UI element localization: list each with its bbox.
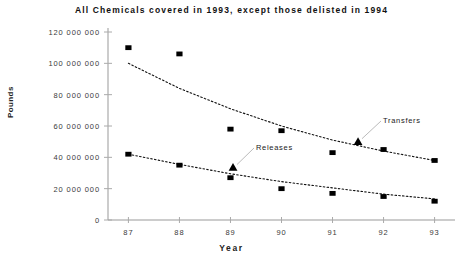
data-point-transfers-87 bbox=[125, 45, 131, 50]
series-marker-releases bbox=[229, 163, 238, 171]
y-tick-label-6: 0 bbox=[20, 216, 100, 225]
data-point-releases-88 bbox=[176, 163, 182, 168]
data-point-releases-92 bbox=[380, 194, 386, 199]
data-point-transfers-88 bbox=[176, 52, 182, 57]
x-tick-label-92: 92 bbox=[378, 228, 388, 237]
y-tick-label-1: 100 000 000 bbox=[20, 59, 100, 68]
y-tick-label-4: 40 000 000 bbox=[20, 153, 100, 162]
data-point-transfers-91 bbox=[329, 150, 335, 155]
x-tick-label-90: 90 bbox=[276, 228, 286, 237]
leader-line-1 bbox=[362, 121, 381, 139]
x-tick-label-88: 88 bbox=[174, 228, 184, 237]
x-tick-label-93: 93 bbox=[430, 228, 440, 237]
data-point-releases-89 bbox=[227, 175, 233, 180]
chart-container: All Chemicals covered in 1993, except th… bbox=[0, 0, 463, 263]
trendline-releases bbox=[128, 154, 434, 199]
data-point-releases-93 bbox=[431, 199, 437, 204]
y-tick-label-3: 60 000 000 bbox=[20, 122, 100, 131]
leader-line-0 bbox=[237, 148, 254, 165]
x-tick-label-87: 87 bbox=[123, 228, 133, 237]
data-point-transfers-89 bbox=[227, 127, 233, 132]
data-point-releases-90 bbox=[278, 186, 284, 191]
y-tick-label-0: 120 000 000 bbox=[20, 28, 100, 37]
series-label-releases: Releases bbox=[256, 143, 293, 152]
data-point-transfers-90 bbox=[278, 128, 284, 133]
y-tick-label-2: 80 000 000 bbox=[20, 90, 100, 99]
data-point-transfers-93 bbox=[431, 158, 437, 163]
x-tick-label-91: 91 bbox=[327, 228, 337, 237]
data-point-releases-87 bbox=[125, 152, 131, 157]
y-tick-label-5: 20 000 000 bbox=[20, 184, 100, 193]
series-marker-transfers bbox=[354, 137, 363, 145]
data-point-releases-91 bbox=[329, 191, 335, 196]
series-label-transfers: Transfers bbox=[383, 116, 421, 125]
x-tick-label-89: 89 bbox=[225, 228, 235, 237]
data-point-transfers-92 bbox=[380, 147, 386, 152]
